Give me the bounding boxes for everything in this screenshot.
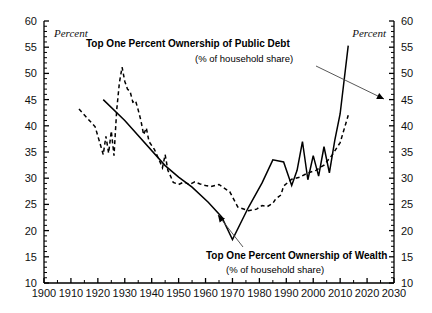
x-axis-tick-label: 2030 bbox=[382, 287, 406, 299]
y-axis-left-tick-label: 40 bbox=[25, 120, 37, 132]
x-axis-tick-label: 1960 bbox=[193, 287, 217, 299]
y-axis-left-tick-label: 60 bbox=[25, 15, 37, 27]
annotation-leader-line bbox=[316, 66, 384, 99]
x-axis-tick-label: 1930 bbox=[113, 287, 137, 299]
y-axis-left-tick-label: 15 bbox=[25, 251, 37, 263]
y-axis-right-tick-label: 35 bbox=[401, 146, 413, 158]
x-axis-tick-label: 1920 bbox=[86, 287, 110, 299]
line-chart: 1015202530354045505560 10152025303540455… bbox=[0, 0, 432, 313]
y-axis-right-tick-label: 50 bbox=[401, 67, 413, 79]
y-axis-left-tick-label: 30 bbox=[25, 172, 37, 184]
y-axis-left-tick-label: 20 bbox=[25, 225, 37, 237]
x-axis-tick-label: 2000 bbox=[301, 287, 325, 299]
x-axis-tick-label: 1940 bbox=[139, 287, 163, 299]
chart-screenshot: 1015202530354045505560 10152025303540455… bbox=[0, 0, 432, 313]
x-axis-tick-label: 1990 bbox=[274, 287, 298, 299]
y-axis-right-unit-label: Percent bbox=[351, 27, 387, 39]
y-axis-left-tick-label: 50 bbox=[25, 67, 37, 79]
x-axis-tick-label: 1950 bbox=[166, 287, 190, 299]
y-axis-left-tick-label: 55 bbox=[25, 41, 37, 53]
series-line-public_debt bbox=[103, 46, 348, 240]
x-axis-tick-label: 1970 bbox=[220, 287, 244, 299]
y-axis-right-tick-label: 15 bbox=[401, 251, 413, 263]
y-axis-right-tick-label: 45 bbox=[401, 94, 413, 106]
annotation-wealth-subtitle: (% of household share) bbox=[226, 264, 324, 275]
x-axis-tick-label: 1980 bbox=[247, 287, 271, 299]
y-axis-right-ticks: 1015202530354045505560 bbox=[389, 15, 413, 289]
y-axis-right-tick-label: 30 bbox=[401, 172, 413, 184]
y-axis-right-tick-label: 40 bbox=[401, 120, 413, 132]
x-axis-ticks: 1900191019201930194019501960197019801990… bbox=[32, 278, 406, 299]
y-axis-right-tick-label: 60 bbox=[401, 15, 413, 27]
x-axis-tick-label: 1900 bbox=[32, 287, 56, 299]
y-axis-right-tick-label: 55 bbox=[401, 41, 413, 53]
y-axis-left-tick-label: 35 bbox=[25, 146, 37, 158]
chart-series-group bbox=[79, 46, 348, 240]
series-line-wealth bbox=[79, 67, 348, 211]
y-axis-left-tick-label: 25 bbox=[25, 198, 37, 210]
y-axis-right-tick-label: 20 bbox=[401, 225, 413, 237]
annotation-wealth-title: Top One Percent Ownership of Wealth bbox=[206, 250, 387, 261]
x-axis-tick-label: 2010 bbox=[328, 287, 352, 299]
x-axis-tick-label: 2020 bbox=[355, 287, 379, 299]
y-axis-right-tick-label: 25 bbox=[401, 198, 413, 210]
y-axis-left-unit-label: Percent bbox=[53, 27, 89, 39]
y-axis-left-ticks: 1015202530354045505560 bbox=[25, 15, 49, 289]
x-axis-tick-label: 1910 bbox=[59, 287, 83, 299]
y-axis-left-tick-label: 45 bbox=[25, 94, 37, 106]
annotation-public-debt-title: Top One Percent Ownership of Public Debt bbox=[86, 38, 290, 49]
annotation-public-debt-subtitle: (% of household share) bbox=[195, 53, 293, 64]
